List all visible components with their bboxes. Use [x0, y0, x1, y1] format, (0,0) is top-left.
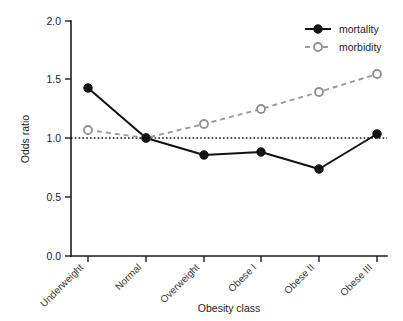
y-axis-ticks — [65, 21, 71, 256]
ytick-label-0-0: 0.0 — [46, 250, 61, 262]
legend-label-morbidity: morbidity — [339, 41, 382, 53]
xtick-label-obese-1: Obese I — [226, 262, 259, 295]
legend-label-mortality: mortality — [339, 23, 379, 35]
series-line-mortality — [88, 88, 377, 169]
xtick-label-overweight: Overweight — [158, 261, 202, 305]
ytick-label-0-5: 0.5 — [46, 191, 61, 203]
x-axis-ticks — [88, 256, 377, 262]
legend-item-mortality[interactable]: mortality — [305, 23, 379, 35]
series-line-morbidity — [88, 74, 377, 138]
xtick-label-normal: Normal — [113, 262, 144, 293]
xtick-label-obese-3: Obese III — [338, 262, 374, 298]
chart-legend: mortality morbidity — [305, 23, 382, 53]
xtick-label-obese-2: Obese II — [282, 262, 317, 297]
ytick-label-1-0: 1.0 — [46, 132, 61, 144]
x-axis-title: Obesity class — [198, 302, 260, 314]
series-markers-morbidity — [84, 70, 381, 142]
odds-ratio-line-chart: 2.0 1.5 1.0 0.5 0.0 Odds ratio Underweig… — [0, 0, 403, 321]
y-axis-title: Odds ratio — [19, 115, 31, 164]
ytick-label-2-0: 2.0 — [46, 15, 61, 27]
xtick-label-underweight: Underweight — [38, 261, 86, 309]
ytick-label-1-5: 1.5 — [46, 73, 61, 85]
chart-figure: 2.0 1.5 1.0 0.5 0.0 Odds ratio Underweig… — [0, 0, 403, 321]
series-markers-mortality — [84, 84, 381, 173]
legend-item-morbidity[interactable]: morbidity — [305, 41, 382, 53]
